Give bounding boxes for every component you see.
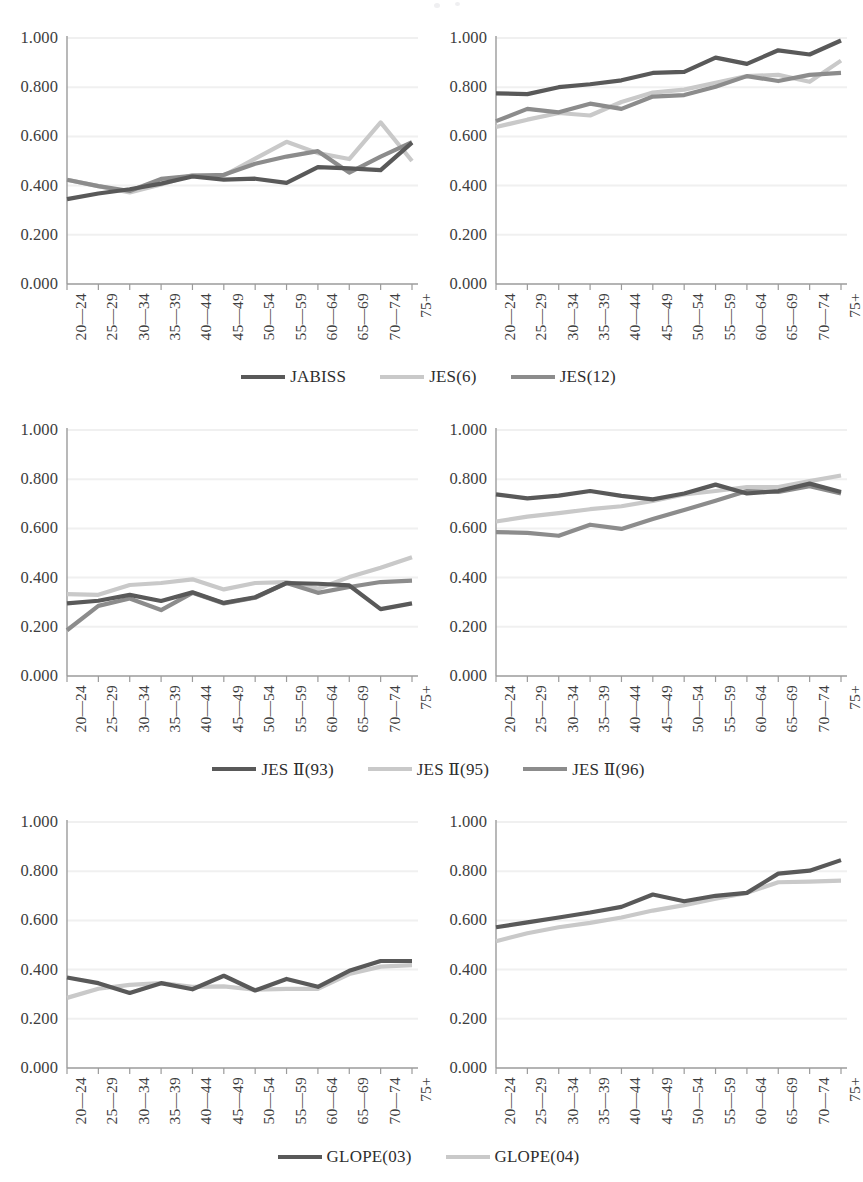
legend-label: JES(12) bbox=[560, 367, 616, 387]
x-axis-tick-label: 20—24 bbox=[502, 685, 518, 733]
x-axis-tick-label: 45—49 bbox=[659, 293, 675, 341]
x-axis-tick-label: 35—39 bbox=[596, 293, 612, 341]
x-axis-tick-label: 60—64 bbox=[324, 1077, 340, 1125]
x-axis-tick-label: 50—54 bbox=[261, 293, 277, 341]
x-axis-tick-label: 75+ bbox=[847, 293, 863, 318]
x-axis-tick-label: 35—39 bbox=[596, 1077, 612, 1125]
y-axis-tick-label: 1.000 bbox=[20, 30, 58, 47]
y-axis-tick-label: 1.000 bbox=[449, 422, 487, 439]
y-axis-tick-label: 0.600 bbox=[449, 128, 487, 145]
legend-swatch bbox=[511, 375, 555, 379]
legend-swatch bbox=[368, 767, 412, 771]
x-axis-tick-label: 40—44 bbox=[627, 1077, 643, 1125]
x-axis-tick-label: 35—39 bbox=[167, 1077, 183, 1125]
x-axis-tick-label: 65—69 bbox=[355, 1077, 371, 1125]
x-axis-tick-label: 55—59 bbox=[722, 1077, 738, 1125]
x-axis-tick-label: 20—24 bbox=[73, 293, 89, 341]
x-axis-tick-label: 65—69 bbox=[784, 1077, 800, 1125]
x-axis-tick-label: 40—44 bbox=[198, 1077, 214, 1125]
legend-item: JES Ⅱ(95) bbox=[368, 759, 489, 780]
x-axis-tick-label: 35—39 bbox=[167, 685, 183, 733]
x-axis-tick-label: 60—64 bbox=[753, 1077, 769, 1125]
panel-top-right: 0.0000.2000.4000.6000.8001.00020—2425—29… bbox=[429, 10, 857, 360]
x-axis-tick-label: 75+ bbox=[847, 1077, 863, 1102]
legend-swatch bbox=[212, 767, 256, 771]
y-axis-tick-label: 1.000 bbox=[449, 30, 487, 47]
x-axis-labels: 20—2425—2930—3435—3940—4445—4950—5455—59… bbox=[429, 293, 857, 413]
y-axis-tick-label: 0.800 bbox=[20, 79, 58, 96]
y-axis-tick-label: 0.800 bbox=[449, 471, 487, 488]
panel-bottom-right: 0.0000.2000.4000.6000.8001.00020—2425—29… bbox=[429, 794, 857, 1144]
x-axis-tick-label: 35—39 bbox=[167, 293, 183, 341]
y-axis-tick-label: 0.400 bbox=[449, 177, 487, 194]
legend-row-3: GLOPE(03)GLOPE(04) bbox=[0, 1142, 857, 1172]
x-axis-tick-label: 25—29 bbox=[533, 1077, 549, 1125]
legend-label: JES Ⅱ(96) bbox=[572, 759, 644, 780]
x-axis-tick-label: 50—54 bbox=[261, 685, 277, 733]
panel-middle-left: 0.0000.2000.4000.6000.8001.00020—2425—29… bbox=[0, 402, 428, 752]
x-axis-tick-label: 30—34 bbox=[565, 293, 581, 341]
x-axis-tick-label: 40—44 bbox=[627, 293, 643, 341]
x-axis-tick-label: 30—34 bbox=[565, 685, 581, 733]
line-chart: 0.0000.2000.4000.6000.8001.00020—2425—29… bbox=[429, 402, 857, 752]
y-axis-tick-label: 0.000 bbox=[449, 276, 487, 293]
y-axis-tick-label: 0.800 bbox=[449, 79, 487, 96]
x-axis-tick-label: 70—74 bbox=[816, 293, 832, 341]
legend-swatch bbox=[278, 1155, 322, 1159]
legend-item: GLOPE(03) bbox=[278, 1147, 412, 1167]
x-axis-tick-label: 55—59 bbox=[722, 685, 738, 733]
x-axis-tick-label: 30—34 bbox=[136, 685, 152, 733]
y-axis-tick-label: 0.200 bbox=[449, 1011, 487, 1028]
scan-artifact bbox=[434, 3, 440, 8]
scan-artifact bbox=[455, 2, 460, 6]
y-axis-tick-label: 0.600 bbox=[20, 912, 58, 929]
legend-label: JES(6) bbox=[429, 367, 476, 387]
legend-row-1: JABISSJES(6)JES(12) bbox=[0, 362, 857, 392]
x-axis-tick-label: 40—44 bbox=[198, 293, 214, 341]
legend-item: JES(6) bbox=[380, 367, 476, 387]
y-axis-tick-label: 0.600 bbox=[449, 912, 487, 929]
y-axis-tick-label: 0.800 bbox=[20, 863, 58, 880]
legend-label: JES Ⅱ(95) bbox=[417, 759, 489, 780]
x-axis-tick-label: 45—49 bbox=[230, 685, 246, 733]
x-axis-tick-label: 65—69 bbox=[355, 293, 371, 341]
y-axis-tick-label: 1.000 bbox=[20, 814, 58, 831]
legend-swatch bbox=[380, 375, 424, 379]
x-axis-tick-label: 70—74 bbox=[387, 685, 403, 733]
legend-row-2: JES Ⅱ(93)JES Ⅱ(95)JES Ⅱ(96) bbox=[0, 754, 857, 784]
y-axis-tick-label: 0.400 bbox=[20, 569, 58, 586]
x-axis-tick-label: 50—54 bbox=[690, 1077, 706, 1125]
x-axis-tick-label: 70—74 bbox=[387, 293, 403, 341]
line-chart: 0.0000.2000.4000.6000.8001.00020—2425—29… bbox=[0, 794, 428, 1144]
legend-swatch bbox=[446, 1155, 490, 1159]
x-axis-labels: 20—2425—2930—3435—3940—4445—4950—5455—59… bbox=[429, 685, 857, 805]
x-axis-tick-label: 45—49 bbox=[659, 685, 675, 733]
y-axis-tick-label: 0.400 bbox=[449, 569, 487, 586]
chart-row-3: 0.0000.2000.4000.6000.8001.00020—2425—29… bbox=[0, 794, 857, 1182]
x-axis-tick-label: 70—74 bbox=[387, 1077, 403, 1125]
x-axis-tick-label: 20—24 bbox=[73, 1077, 89, 1125]
x-axis-tick-label: 45—49 bbox=[230, 293, 246, 341]
y-axis-tick-label: 0.600 bbox=[449, 520, 487, 537]
y-axis-tick-label: 1.000 bbox=[449, 814, 487, 831]
x-axis-tick-label: 25—29 bbox=[104, 293, 120, 341]
legend-label: GLOPE(03) bbox=[327, 1147, 412, 1167]
y-axis-tick-label: 0.400 bbox=[20, 961, 58, 978]
x-axis-tick-label: 60—64 bbox=[324, 293, 340, 341]
x-axis-tick-label: 25—29 bbox=[104, 1077, 120, 1125]
series-line bbox=[67, 557, 412, 595]
series-line bbox=[67, 122, 412, 192]
x-axis-tick-label: 40—44 bbox=[198, 685, 214, 733]
x-axis-tick-label: 20—24 bbox=[73, 685, 89, 733]
x-axis-tick-label: 75+ bbox=[847, 685, 863, 710]
x-axis-tick-label: 55—59 bbox=[293, 1077, 309, 1125]
x-axis-labels: 20—2425—2930—3435—3940—4445—4950—5455—59… bbox=[0, 293, 428, 413]
line-chart: 0.0000.2000.4000.6000.8001.00020—2425—29… bbox=[0, 402, 428, 752]
y-axis-tick-label: 1.000 bbox=[20, 422, 58, 439]
x-axis-tick-label: 30—34 bbox=[565, 1077, 581, 1125]
legend-label: GLOPE(04) bbox=[495, 1147, 580, 1167]
series-line bbox=[496, 881, 841, 942]
chart-row-1: 0.0000.2000.4000.6000.8001.00020—2425—29… bbox=[0, 10, 857, 402]
chart-row-2: 0.0000.2000.4000.6000.8001.00020—2425—29… bbox=[0, 402, 857, 794]
